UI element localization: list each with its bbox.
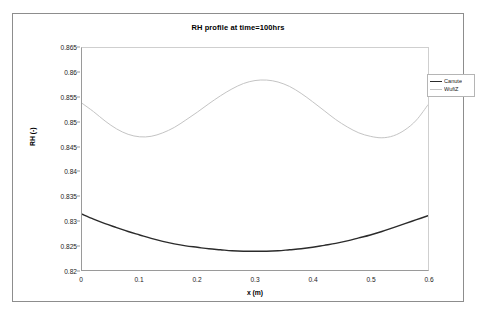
x-axis-tick-label: 0 [66, 276, 96, 283]
plot-area [81, 47, 429, 271]
legend-swatch-icon [430, 89, 442, 90]
y-axis-tick-mark [77, 121, 80, 122]
y-axis-tick-label: 0.825 [35, 243, 77, 250]
x-axis-tick-label: 0.4 [298, 276, 328, 283]
y-axis-tick-label: 0.84 [35, 168, 77, 175]
y-axis-tick-mark [77, 171, 80, 172]
y-axis-tick-label: 0.865 [35, 44, 77, 51]
x-axis-title: x (m) [81, 289, 429, 296]
legend-label: WufiZ [444, 85, 459, 93]
chart-title: RH profile at time=100hrs [13, 23, 463, 32]
y-axis-tick-label: 0.86 [35, 68, 77, 75]
x-axis-tick-labels: 00.10.20.30.40.50.6 [81, 274, 429, 288]
y-axis-tick-labels: 0.8650.860.8550.850.8450.840.8350.830.82… [33, 47, 77, 271]
y-axis-tick-mark [77, 271, 80, 272]
plot-lines [82, 48, 428, 270]
y-axis-tick-label: 0.82 [35, 268, 77, 275]
y-axis-tick-mark [77, 146, 80, 147]
x-axis-tick-label: 0.1 [124, 276, 154, 283]
y-axis-tick-mark [77, 246, 80, 247]
chart-frame: RH profile at time=100hrs RH (-) 0.8650.… [12, 13, 464, 302]
x-axis-tick-label: 0.6 [414, 276, 444, 283]
series-line-wufiz [82, 80, 428, 138]
y-axis-tick-mark [77, 71, 80, 72]
y-axis-tick-mark [77, 96, 80, 97]
y-axis-tick-label: 0.845 [35, 143, 77, 150]
y-axis-tick-label: 0.83 [35, 218, 77, 225]
legend-item: WufiZ [430, 85, 472, 93]
x-axis-tick-label: 0.5 [356, 276, 386, 283]
series-line-canute [82, 214, 428, 251]
y-axis-tick-mark [77, 196, 80, 197]
chart-legend: CanuteWufiZ [427, 74, 475, 97]
y-axis-tick-label: 0.855 [35, 93, 77, 100]
y-axis-tick-label: 0.835 [35, 193, 77, 200]
y-axis-tick-mark [77, 47, 80, 48]
y-axis-tick-mark [77, 221, 80, 222]
y-axis-tick-label: 0.85 [35, 118, 77, 125]
legend-swatch-icon [430, 81, 442, 82]
legend-label: Canute [444, 77, 462, 85]
legend-item: Canute [430, 77, 472, 85]
x-axis-tick-label: 0.3 [240, 276, 270, 283]
x-axis-tick-label: 0.2 [182, 276, 212, 283]
